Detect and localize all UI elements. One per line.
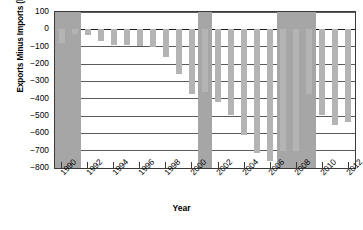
- chart-figure: Exports Minus Imports (billions of dolla…: [0, 0, 363, 230]
- bar-1992: [85, 29, 91, 35]
- y-tick-label--400: −400: [30, 93, 49, 103]
- bar-2003: [228, 29, 234, 115]
- bar-1995: [124, 29, 130, 45]
- y-tick-label-0: 0: [44, 23, 49, 33]
- bar-2008: [293, 29, 299, 150]
- y-axis-title-container: Exports Minus Imports (billions of dolla…: [0, 0, 16, 170]
- bar-2000: [189, 29, 195, 94]
- bar-1997: [150, 29, 156, 47]
- y-tick-label--300: −300: [30, 75, 49, 85]
- bar-1994: [111, 29, 117, 45]
- x-axis-tick-labels: 1990199219941996199820002002200420062008…: [0, 170, 363, 206]
- y-tick-label--500: −500: [30, 110, 49, 120]
- bar-2001: [202, 29, 208, 92]
- y-axis-tick-labels: 1000−100−200−300−400−500−600−700−800: [16, 0, 52, 175]
- bar-2006: [267, 29, 273, 161]
- bar-2005: [254, 29, 260, 153]
- bar-1990: [59, 29, 65, 42]
- x-axis-title: Year: [0, 203, 363, 213]
- bar-2010: [319, 29, 325, 115]
- bar-1996: [137, 29, 143, 46]
- y-tick-label-100: 100: [35, 6, 49, 16]
- y-tick-label--200: −200: [30, 58, 49, 68]
- bar-2009: [306, 29, 312, 94]
- plot-area: [54, 11, 356, 169]
- bar-1998: [163, 29, 169, 57]
- bar-2012: [345, 29, 351, 122]
- y-tick-label--100: −100: [30, 41, 49, 51]
- bar-2002: [215, 29, 221, 102]
- bar-2011: [332, 29, 338, 124]
- y-tick-label--600: −600: [30, 127, 49, 137]
- bar-2007: [280, 29, 286, 150]
- bar-1999: [176, 29, 182, 73]
- bar-1991: [72, 29, 78, 34]
- bar-1993: [98, 29, 104, 40]
- bar-2004: [241, 29, 247, 135]
- y-tick-label--700: −700: [30, 145, 49, 155]
